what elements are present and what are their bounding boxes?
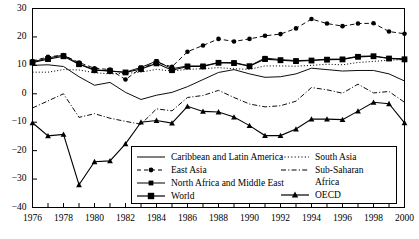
data-point-marker — [45, 56, 51, 62]
data-point-marker — [123, 77, 128, 82]
solid-square-line-icon — [136, 190, 166, 202]
y-axis-tick-label: −20 — [0, 145, 27, 155]
data-point-marker — [340, 56, 346, 62]
data-point-marker — [387, 29, 392, 34]
dashed-circle-line-icon — [136, 164, 166, 176]
data-point-marker — [356, 21, 361, 26]
data-point-marker — [402, 32, 407, 37]
legend-label: North Africa and Middle East — [171, 177, 284, 189]
data-point-marker — [185, 103, 191, 108]
data-point-marker — [293, 126, 299, 131]
data-point-marker — [201, 43, 206, 48]
solid-square-small-line-icon — [136, 177, 166, 189]
data-point-marker — [76, 61, 82, 67]
data-point-marker — [247, 37, 252, 42]
data-point-marker — [294, 26, 299, 31]
data-point-marker — [232, 39, 237, 44]
data-point-marker — [247, 63, 253, 69]
data-point-marker — [309, 58, 315, 64]
solid-triangle-line-icon — [280, 189, 310, 201]
legend-label: Caribbean and Latin America — [171, 151, 283, 163]
y-axis-tick-label: 0 — [0, 88, 27, 98]
data-point-marker — [355, 108, 361, 113]
legend-column-left: Caribbean and Latin America East Asia No… — [136, 150, 284, 202]
y-axis-tick-label: 30 — [0, 3, 27, 13]
legend-item-east-asia[interactable]: East Asia — [136, 163, 284, 176]
chart-legend: Caribbean and Latin America East Asia No… — [131, 146, 397, 204]
data-point-marker — [325, 21, 330, 26]
legend-label: East Asia — [171, 164, 207, 176]
data-point-marker — [371, 53, 377, 59]
data-point-marker — [293, 58, 299, 64]
y-axis-tick-label: −10 — [0, 116, 27, 126]
data-point-marker — [263, 33, 268, 38]
data-point-marker — [61, 53, 67, 59]
y-axis-tick-label: −40 — [0, 202, 27, 212]
data-point-marker — [355, 54, 361, 60]
data-point-marker — [30, 60, 36, 66]
data-point-marker — [247, 123, 253, 128]
dotted-line-icon — [280, 151, 310, 163]
data-point-marker — [92, 67, 98, 73]
y-axis-tick-label: 10 — [0, 59, 27, 69]
legend-column-right: South Asia Sub-Saharan Africa OECD — [280, 150, 364, 201]
data-point-marker — [216, 37, 221, 42]
series-line — [33, 84, 405, 124]
data-point-marker — [123, 70, 129, 76]
y-axis-tick-label: −30 — [0, 173, 27, 183]
data-point-marker — [231, 60, 237, 66]
y-axis-tick-label: 20 — [0, 31, 27, 41]
legend-label: OECD — [315, 189, 341, 201]
legend-item-north-africa-and-middle-east[interactable]: North Africa and Middle East — [136, 176, 284, 189]
data-point-marker — [169, 67, 175, 73]
legend-item-oecd[interactable]: OECD — [280, 188, 364, 201]
dashdot-line-icon — [280, 164, 310, 176]
data-point-marker — [216, 60, 222, 66]
series-line — [33, 65, 405, 100]
data-point-marker — [154, 60, 160, 66]
legend-label-continuation: Africa — [280, 176, 364, 188]
data-point-marker — [185, 49, 190, 54]
legend-label: Sub-Saharan — [315, 164, 364, 176]
data-point-marker — [262, 56, 268, 62]
x-axis-tick-label: 2000 — [385, 213, 419, 223]
data-point-marker — [371, 21, 376, 26]
data-point-marker — [309, 17, 314, 22]
data-point-marker — [324, 57, 330, 63]
legend-item-south-asia[interactable]: South Asia — [280, 150, 364, 163]
solid-line-icon — [136, 151, 166, 163]
data-point-marker — [107, 68, 113, 74]
data-point-marker — [402, 56, 408, 62]
data-point-marker — [278, 32, 283, 37]
legend-item-world[interactable]: World — [136, 189, 284, 202]
legend-item-caribbean-and-latin-america[interactable]: Caribbean and Latin America — [136, 150, 284, 163]
data-point-marker — [185, 64, 191, 70]
series-sub-saharan-africa — [33, 84, 405, 124]
data-point-marker — [340, 24, 345, 29]
legend-label: South Asia — [315, 151, 356, 163]
data-point-marker — [278, 57, 284, 63]
series-caribbean-and-latin-america — [33, 65, 405, 100]
legend-item-sub-saharan-africa[interactable]: Sub-Saharan — [280, 163, 364, 176]
data-point-marker — [138, 66, 144, 72]
legend-label: World — [171, 190, 195, 202]
